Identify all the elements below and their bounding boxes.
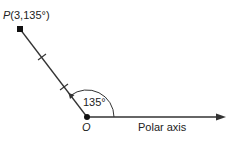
polar-axis-label: Polar axis [138,122,186,133]
angle-label: 135° [83,97,106,108]
terminal-ray [20,29,87,117]
point-coords: (3,135°) [10,9,49,21]
point-p-label: P(3,135°) [3,10,50,21]
point-p-marker [17,26,23,32]
arrowhead-icon [216,114,226,121]
origin-marker [84,114,90,120]
tick-mark-2 [60,84,68,90]
diagram-graphics [0,0,231,145]
polar-diagram: P(3,135°) 135° O Polar axis [0,0,231,145]
origin-label: O [82,122,91,133]
